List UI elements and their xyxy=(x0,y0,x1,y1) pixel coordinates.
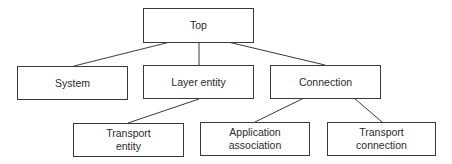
edge-layer-entity-transport-entity xyxy=(128,99,199,123)
node-transport-connection: Transport connection xyxy=(327,122,436,156)
edge-connection-transport-connection xyxy=(354,98,382,122)
node-label: System xyxy=(55,77,90,90)
node-label: Transport entity xyxy=(106,127,151,153)
node-label: Connection xyxy=(299,76,352,89)
node-label: Application association xyxy=(229,126,282,152)
edge-connection-application-association xyxy=(255,98,304,122)
node-transport-entity: Transport entity xyxy=(73,123,184,157)
node-label: Transport connection xyxy=(356,126,407,152)
node-top: Top xyxy=(143,8,254,43)
edge-top-connection xyxy=(228,42,325,65)
node-system: System xyxy=(17,66,128,100)
node-connection: Connection xyxy=(270,65,381,99)
node-layer-entity: Layer entity xyxy=(143,65,254,99)
node-label: Top xyxy=(190,19,207,32)
node-label: Layer entity xyxy=(171,76,225,89)
node-application-association: Application association xyxy=(200,122,310,156)
edge-top-system xyxy=(74,42,170,66)
